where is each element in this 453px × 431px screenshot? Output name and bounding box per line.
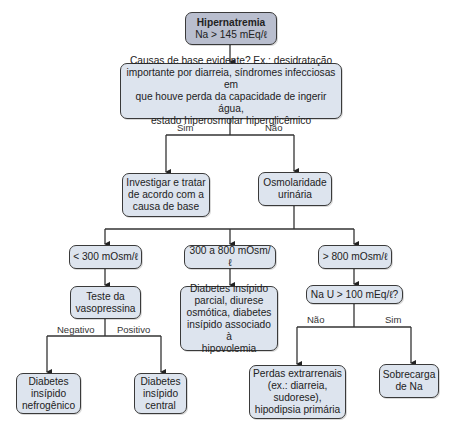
edge-label-positive: Positivo	[117, 324, 150, 335]
osm-high-text: > 800 mOsm/ℓ	[323, 251, 388, 263]
extrarenal-losses-text: Perdas extrarrenais (ex.: diarreia, sudo…	[253, 368, 342, 416]
nephrogenic-di-node: Diabetes insípido nefrogênico	[16, 373, 81, 414]
osm-low-text: < 300 mOsm/ℓ	[73, 251, 138, 263]
osm-high-node: > 800 mOsm/ℓ	[318, 245, 392, 269]
edge-label-no: Não	[265, 122, 282, 133]
urine-osmolality-node: Osmolaridade urinária	[258, 172, 332, 206]
sodium-overload-text: Sobrecarga de Na	[383, 369, 436, 393]
edge-label-yes: Sim	[177, 122, 193, 133]
underlying-causes-text: Causas de base evidente? Ex.: desidrataç…	[124, 55, 338, 127]
vasopressin-test-node: Teste da vasopressina	[70, 286, 141, 319]
urine-sodium-text: Na U > 100 mEq/ℓ?	[311, 289, 398, 301]
vasopressin-test-text: Teste da vasopressina	[75, 291, 135, 315]
extrarenal-losses-node: Perdas extrarrenais (ex.: diarreia, sudo…	[249, 365, 346, 419]
edge-label-nau-yes: Sim	[385, 314, 401, 325]
root-subtitle: Na > 145 mEq/ℓ	[195, 29, 267, 40]
osm-low-node: < 300 mOsm/ℓ	[69, 245, 142, 269]
partial-di-node: Diabetes insípido parcial, diurese osmót…	[180, 286, 278, 351]
urine-sodium-node: Na U > 100 mEq/ℓ?	[306, 285, 403, 304]
central-di-node: Diabetes insípido central	[134, 373, 187, 414]
edge-label-nau-no: Não	[307, 314, 324, 325]
investigate-node: Investigar e tratar de acordo com a caus…	[122, 173, 210, 217]
osm-mid-text: 300 a 800 mOsm/ℓ	[188, 245, 272, 269]
partial-di-text: Diabetes insípido parcial, diurese osmót…	[184, 283, 274, 355]
osm-mid-node: 300 a 800 mOsm/ℓ	[184, 245, 276, 269]
urine-osmolality-text: Osmolaridade urinária	[263, 177, 326, 201]
underlying-causes-node: Causas de base evidente? Ex.: desidrataç…	[120, 63, 342, 119]
edge-label-negative: Negativo	[57, 324, 95, 335]
central-di-text: Diabetes insípido central	[140, 376, 180, 412]
root-title: Hipernatremia	[195, 17, 267, 29]
investigate-text: Investigar e tratar de acordo com a caus…	[126, 177, 205, 213]
nephrogenic-di-text: Diabetes insípido nefrogênico	[22, 376, 75, 412]
sodium-overload-node: Sobrecarga de Na	[379, 364, 439, 398]
hypernatremia-root-node: HipernatremiaNa > 145 mEq/ℓ	[185, 12, 277, 45]
